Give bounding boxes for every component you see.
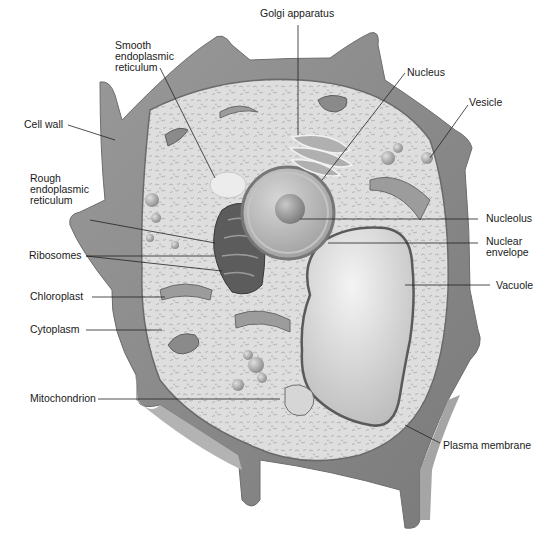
label-chloroplast: Chloroplast — [30, 291, 83, 302]
label-vacuole: Vacuole — [496, 280, 533, 291]
label-ribosomes: Ribosomes — [29, 250, 82, 261]
label-cell-wall: Cell wall — [24, 119, 63, 130]
label-nucleus: Nucleus — [407, 67, 445, 78]
plant-cell-diagram: Smooth endoplasmic reticulum Golgi appar… — [0, 0, 558, 560]
label-plasma-membrane: Plasma membrane — [443, 440, 531, 451]
label-nucleolus: Nucleolus — [486, 213, 532, 224]
nucleolus-shape — [275, 194, 305, 224]
label-vesicle: Vesicle — [469, 97, 502, 108]
mitochondrion-cut — [285, 385, 314, 416]
smooth-er-shape — [210, 172, 246, 198]
cell-illustration — [0, 0, 558, 560]
label-cytoplasm: Cytoplasm — [30, 324, 80, 335]
vacuole-shape — [302, 228, 414, 426]
label-mitochondrion: Mitochondrion — [30, 393, 96, 404]
label-rough-endoplasmic-reticulum: Rough endoplasmic reticulum — [30, 173, 89, 206]
label-smooth-endoplasmic-reticulum: Smooth endoplasmic reticulum — [115, 40, 174, 73]
label-nuclear-envelope: Nuclear envelope — [486, 236, 529, 258]
label-golgi-apparatus: Golgi apparatus — [260, 8, 334, 19]
